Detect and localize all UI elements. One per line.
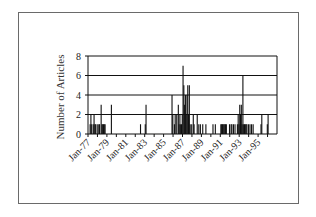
bar <box>97 124 98 134</box>
bar <box>140 124 141 134</box>
bar <box>234 124 235 134</box>
bar <box>95 124 96 134</box>
bar <box>145 105 146 134</box>
bar <box>202 124 203 134</box>
bar <box>91 124 92 134</box>
bar <box>233 124 234 134</box>
y-tick-label: 0 <box>76 129 81 140</box>
y-tick-label: 2 <box>76 109 81 120</box>
bar <box>176 115 177 135</box>
bar <box>229 124 230 134</box>
bar <box>105 124 106 134</box>
y-tick-label: 4 <box>76 90 81 101</box>
bar <box>175 115 176 135</box>
bar <box>251 124 252 134</box>
y-axis-ticks: 02468 <box>76 51 88 140</box>
bar <box>226 124 227 134</box>
bar <box>246 124 247 134</box>
bar <box>197 115 198 135</box>
bar <box>200 124 201 134</box>
y-tick-label: 8 <box>76 51 81 62</box>
bar <box>205 124 206 134</box>
bar <box>253 124 254 134</box>
bar <box>212 124 213 134</box>
bar <box>172 115 173 135</box>
bar <box>215 124 216 134</box>
x-axis-ticks: Jan-77Jan-79Jan-81Jan-83Jan-85Jan-87Jan-… <box>66 134 268 163</box>
bar <box>194 124 195 134</box>
bar <box>99 124 100 134</box>
y-axis-title: Number of Articles <box>54 55 66 140</box>
bar <box>261 115 262 135</box>
bar <box>231 124 232 134</box>
bar <box>248 124 249 134</box>
bar <box>190 124 191 134</box>
y-tick-label: 6 <box>76 70 81 81</box>
bar <box>198 124 199 134</box>
bar <box>268 115 269 135</box>
bar-chart: 02468 Jan-77Jan-79Jan-81Jan-83Jan-85Jan-… <box>0 0 316 217</box>
bar <box>111 105 112 134</box>
bar <box>249 124 250 134</box>
bar <box>191 124 192 134</box>
x-tick-label: Jan-95 <box>236 137 263 164</box>
